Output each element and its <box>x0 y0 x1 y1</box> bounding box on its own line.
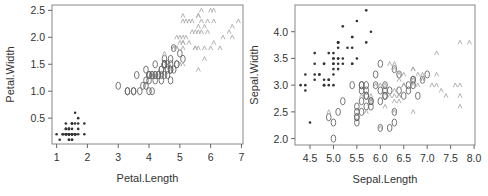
data-point <box>401 92 406 99</box>
data-point <box>68 133 71 136</box>
x-tick-label: 7.5 <box>443 152 458 164</box>
data-point <box>304 73 307 76</box>
data-point <box>337 46 340 49</box>
data-point <box>209 46 213 50</box>
data-point <box>153 61 158 68</box>
scatter-plot-2: 4.55.05.56.06.57.07.58.02.02.53.03.54.0S… <box>248 5 482 185</box>
data-point <box>212 41 216 45</box>
data-point <box>388 94 392 98</box>
data-point <box>150 88 155 95</box>
data-point <box>435 83 439 87</box>
data-point <box>351 36 354 39</box>
data-point <box>199 19 203 23</box>
data-point <box>439 88 443 92</box>
data-point <box>373 71 378 78</box>
data-point <box>351 46 354 49</box>
data-point <box>77 122 80 125</box>
data-point <box>71 138 74 141</box>
data-point <box>421 78 425 82</box>
data-point <box>402 72 406 76</box>
data-point <box>402 83 406 87</box>
data-point <box>359 98 364 105</box>
data-point <box>332 57 335 60</box>
data-point <box>74 133 77 136</box>
series-virginica <box>327 40 472 130</box>
data-point <box>184 35 188 39</box>
data-point <box>337 41 340 44</box>
data-point <box>313 62 316 65</box>
data-point <box>71 128 74 131</box>
data-point <box>374 83 378 87</box>
data-point <box>202 46 206 50</box>
data-point <box>416 72 420 76</box>
x-tick-label: 6 <box>208 151 214 163</box>
data-point <box>378 87 383 94</box>
data-point <box>378 60 383 67</box>
data-point <box>378 126 382 130</box>
data-point <box>165 66 170 73</box>
x-axis-label: Sepal.Length <box>353 173 418 185</box>
y-tick-label: 2.5 <box>273 106 288 118</box>
x-axis-label: Petal.Length <box>117 172 179 184</box>
data-point <box>212 19 216 23</box>
data-point <box>172 46 176 50</box>
data-point <box>369 103 374 110</box>
data-point <box>83 122 86 125</box>
data-point <box>309 121 312 124</box>
data-point <box>131 88 136 95</box>
x-tick-label: 4 <box>146 151 152 163</box>
x-tick-label: 7.0 <box>420 152 435 164</box>
data-point <box>77 128 80 131</box>
data-point <box>332 52 335 55</box>
y-tick-label: 1.5 <box>30 58 45 70</box>
data-point <box>342 62 345 65</box>
data-point <box>365 9 368 12</box>
data-point <box>304 89 307 92</box>
x-tick-label: 3 <box>115 151 121 163</box>
y-tick-label: 2.5 <box>30 4 45 16</box>
data-point <box>332 84 335 87</box>
data-point <box>392 94 396 98</box>
scatter-plot-1: 12345670.51.01.52.02.5Petal.LengthPetal.… <box>4 4 245 184</box>
data-point <box>58 138 61 141</box>
data-point <box>337 68 340 71</box>
data-point <box>337 62 340 65</box>
data-point <box>364 92 369 99</box>
y-tick-label: 1.0 <box>30 85 45 97</box>
data-point <box>125 88 130 95</box>
series-virginica <box>162 8 240 71</box>
data-point <box>196 67 200 71</box>
data-point <box>444 94 448 98</box>
data-point <box>383 104 387 108</box>
data-point <box>193 46 197 50</box>
y-tick-label: 4.0 <box>273 26 288 38</box>
y-tick-label: 2.0 <box>30 31 45 43</box>
data-point <box>355 103 360 110</box>
data-point <box>65 133 68 136</box>
data-point <box>175 35 179 39</box>
y-tick-label: 3.0 <box>273 79 288 91</box>
data-point <box>202 24 206 28</box>
data-point <box>230 24 234 28</box>
data-point <box>190 19 194 23</box>
data-point <box>221 35 225 39</box>
series-setosa <box>55 111 85 141</box>
data-point <box>342 25 345 28</box>
data-point <box>323 79 326 82</box>
data-point <box>162 55 167 62</box>
data-point <box>359 82 364 89</box>
data-point <box>71 122 74 125</box>
x-tick-label: 1 <box>54 151 60 163</box>
data-point <box>388 62 392 66</box>
data-point <box>68 128 71 131</box>
data-point <box>350 82 355 89</box>
data-point <box>411 83 415 87</box>
x-tick-label: 5.5 <box>350 152 365 164</box>
data-point <box>199 8 203 12</box>
data-point <box>458 83 462 87</box>
data-point <box>150 71 155 78</box>
data-point <box>68 138 71 141</box>
data-point <box>181 62 185 66</box>
data-point <box>196 14 200 18</box>
data-point <box>181 14 185 18</box>
